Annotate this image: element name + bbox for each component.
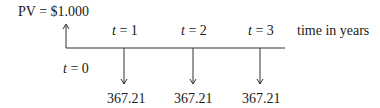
time-eq: = 0 <box>67 61 89 76</box>
period-label-2: t = 2 <box>181 23 207 39</box>
origin-label: t = 0 <box>63 61 89 77</box>
time-eq: = 3 <box>252 23 274 38</box>
down-arrow-icon <box>257 48 263 84</box>
cash-flow-3: 367.21 <box>242 91 281 107</box>
cash-flow-2: 367.21 <box>174 91 213 107</box>
cash-flow-1: 367.21 <box>107 91 146 107</box>
period-label-1: t = 1 <box>112 23 138 39</box>
time-axis-label: time in years <box>297 23 369 39</box>
time-eq: = 1 <box>116 23 138 38</box>
up-arrow-icon <box>63 24 69 48</box>
time-eq: = 2 <box>185 23 207 38</box>
down-arrow-icon <box>121 48 127 84</box>
present-value-label: PV = $1.000 <box>18 4 89 20</box>
period-label-3: t = 3 <box>248 23 274 39</box>
down-arrow-icon <box>190 48 196 84</box>
